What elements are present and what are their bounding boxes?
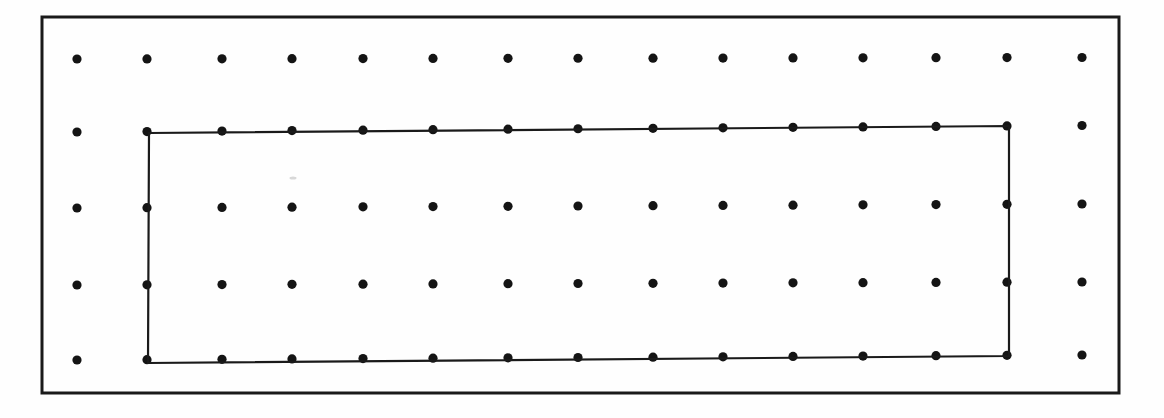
lattice-dot <box>858 278 867 287</box>
lattice-dot <box>217 203 226 212</box>
lattice-dot <box>718 278 727 287</box>
lattice-dot <box>931 53 940 62</box>
lattice-dot <box>217 280 226 289</box>
lattice-dot <box>1077 199 1086 208</box>
lattice-dot <box>72 280 81 289</box>
scan-speck <box>290 177 297 180</box>
lattice-dot <box>428 54 437 63</box>
lattice-dot <box>72 127 81 136</box>
lattice-dot <box>648 201 657 210</box>
lattice-dot <box>287 54 296 63</box>
lattice-dot <box>358 54 367 63</box>
lattice-dot <box>1077 277 1086 286</box>
figure-root: Dot lattice with inscribed rectangle <box>0 0 1164 418</box>
lattice-dot <box>428 279 437 288</box>
lattice-dot <box>428 202 437 211</box>
lattice-dot <box>573 201 582 210</box>
lattice-dot <box>573 279 582 288</box>
lattice-dot <box>503 279 512 288</box>
lattice-dot <box>648 54 657 63</box>
lattice-dot <box>1002 200 1011 209</box>
lattice-dot <box>142 54 151 63</box>
scan-artifacts <box>290 177 297 180</box>
lattice-dot <box>648 353 657 362</box>
lattice-dot <box>1002 53 1011 62</box>
lattice-dot <box>788 352 797 361</box>
lattice-dot <box>931 200 940 209</box>
lattice-dot <box>718 53 727 62</box>
lattice-dot <box>503 54 512 63</box>
lattice-dot <box>287 280 296 289</box>
lattice-dot <box>648 279 657 288</box>
lattice-dot <box>287 203 296 212</box>
lattice-dot <box>718 201 727 210</box>
lattice-dot <box>858 200 867 209</box>
lattice-dot <box>1077 121 1086 130</box>
lattice-dot <box>718 352 727 361</box>
lattice-dot <box>573 353 582 362</box>
lattice-dot <box>142 203 151 212</box>
lattice-dot <box>72 54 81 63</box>
lattice-dot <box>358 202 367 211</box>
lattice-dot <box>858 53 867 62</box>
lattice-dot <box>287 126 296 135</box>
lattice-dot <box>1077 350 1086 359</box>
lattice-dot <box>217 126 226 135</box>
lattice-dot <box>573 54 582 63</box>
figure-canvas <box>0 0 1164 418</box>
lattice-dot <box>503 202 512 211</box>
lattice-dot <box>142 280 151 289</box>
lattice-dot <box>72 355 81 364</box>
lattice-dot <box>142 127 151 136</box>
lattice-dot <box>1077 53 1086 62</box>
lattice-dot <box>1002 278 1011 287</box>
lattice-dot <box>72 203 81 212</box>
lattice-dot <box>788 53 797 62</box>
lattice-dot <box>931 278 940 287</box>
lattice-dot <box>788 278 797 287</box>
lattice-dot <box>358 280 367 289</box>
lattice-dot <box>788 201 797 210</box>
lattice-dot <box>217 54 226 63</box>
